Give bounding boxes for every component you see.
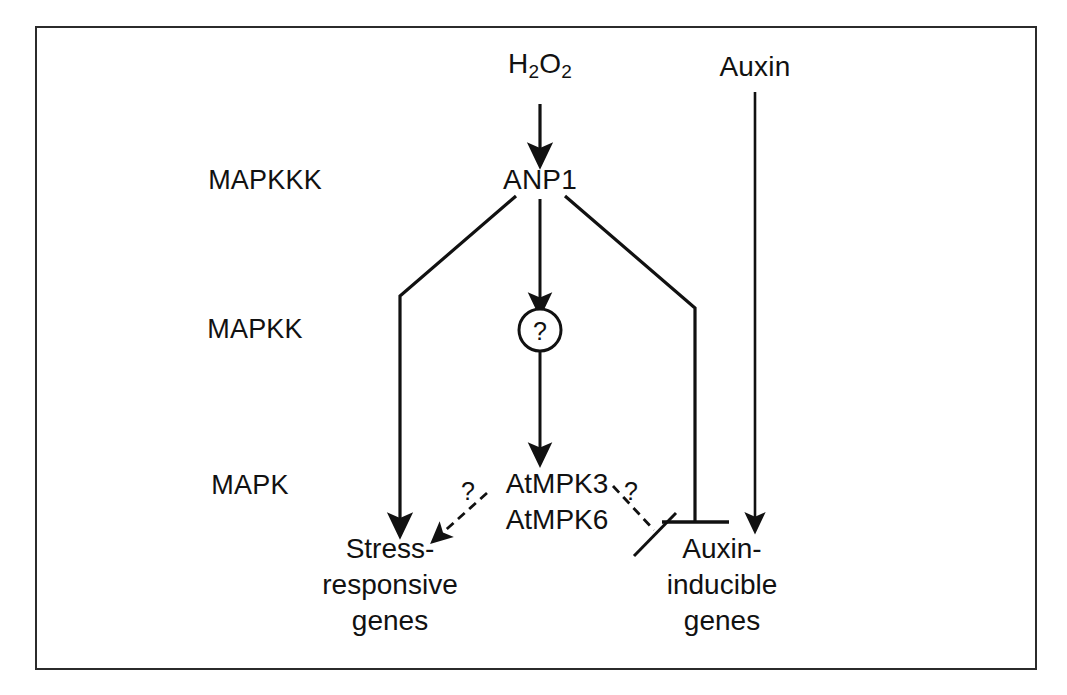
h2o2-element-o: O — [539, 48, 561, 79]
auxin-genes-line-2: inducible — [667, 567, 778, 603]
h2o2-subscript-2b: 2 — [561, 61, 572, 82]
node-atmpk3-label: AtMPK3 — [506, 466, 609, 502]
node-anp1-label: ANP1 — [503, 166, 577, 194]
tier-label-mapkk: MAPKK — [207, 316, 303, 343]
input-h2o2-label: H2O2 — [508, 50, 572, 81]
pathway-diagram-canvas — [0, 0, 1067, 695]
unknown-mapkk-question-mark: ? — [533, 317, 547, 346]
stress-genes-line-1: Stress- — [322, 531, 457, 567]
tier-label-mapkkk: MAPKKK — [208, 167, 322, 194]
node-atmpk6-label: AtMPK6 — [506, 502, 609, 538]
edge-anp1-to-stress-genes — [400, 196, 516, 527]
output-stress-responsive-genes: Stress- responsive genes — [322, 531, 457, 638]
stress-genes-line-2: responsive — [322, 567, 457, 603]
auxin-genes-line-1: Auxin- — [667, 531, 778, 567]
edge-label-stress-query: ? — [461, 477, 475, 506]
h2o2-element-h: H — [508, 48, 528, 79]
tier-label-mapk: MAPK — [211, 472, 288, 499]
figure-page: H2O2 Auxin MAPKKK MAPKK MAPK ANP1 ? AtMP… — [0, 0, 1067, 695]
stress-genes-line-3: genes — [322, 603, 457, 639]
node-atmpk-labels: AtMPK3 AtMPK6 — [506, 466, 609, 538]
auxin-genes-line-3: genes — [667, 603, 778, 639]
h2o2-subscript-2a: 2 — [528, 61, 539, 82]
output-auxin-inducible-genes: Auxin- inducible genes — [667, 531, 778, 638]
edge-label-auxin-query: ? — [624, 477, 638, 506]
input-auxin-label: Auxin — [719, 53, 790, 81]
